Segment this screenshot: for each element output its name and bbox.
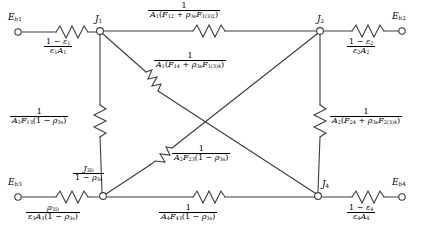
resistor-eb3-j3 <box>56 191 88 203</box>
terminal-label-eb2: Eb2 <box>392 12 406 22</box>
resistor-label-j2-j4: 1 A2(F24 + ρ3sF2(3)4) <box>330 108 402 125</box>
radiation-network-figure: Eb1 Eb2 Eb3 Eb4 J1 J2 J4 J3D 1 − ρ3s 1 −… <box>0 0 423 246</box>
resistor-label-j2-j3: 1 A2F23(1 − ρ3s) <box>172 145 230 162</box>
resistor-j1-j2 <box>193 25 225 37</box>
junction-label-j1: J1 <box>95 15 102 25</box>
resistor-j1-j4 <box>146 70 161 91</box>
resistor-j2-eb2 <box>352 25 384 37</box>
resistor-label-j1-j3: 1 A1F13(1 − ρ3s) <box>10 108 68 125</box>
resistor-j2-j3 <box>150 147 172 165</box>
junction-label-j4: J4 <box>322 180 329 190</box>
resistor-label-eb1-j1: 1 − ε1 ε1A1 <box>44 38 72 55</box>
terminal-label-eb3: Eb3 <box>8 178 22 188</box>
resistor-label-j1-j2: 1 A1(F12 + ρ3sF1(3)2) <box>148 2 220 19</box>
wire-j1-j4-lower <box>158 91 315 193</box>
terminal-node-eb3[interactable] <box>15 194 21 200</box>
resistor-label-j2-eb2: 1 − ε2 ε2A2 <box>347 38 375 55</box>
resistor-j2-j4 <box>314 105 326 137</box>
wire-j1-j4-upper <box>103 34 146 72</box>
resistor-label-j1-j4: 1 A1(F14 + ρ3sF1(3)4) <box>154 52 226 69</box>
resistor-j1-j3 <box>94 105 106 137</box>
terminal-label-eb4: Eb4 <box>392 178 406 188</box>
terminal-node-eb2[interactable] <box>399 28 405 34</box>
junction-label-j2: J2 <box>317 15 324 25</box>
resistor-label-eb3-j3: ρ3D ε3A3(1 − ρ3s) <box>26 204 80 221</box>
resistor-label-j3-j4: 1 A4F43(1 − ρ3s) <box>159 204 217 221</box>
resistor-label-j4-eb4: 1 − ε4 ε4A4 <box>347 204 375 221</box>
junction-node-j2[interactable] <box>317 28 324 35</box>
terminal-node-eb4[interactable] <box>399 194 405 200</box>
wire-j2-j3-lower <box>106 165 150 194</box>
junction-node-j3[interactable] <box>100 193 107 200</box>
resistor-j3-j4 <box>193 191 225 203</box>
junction-node-j4[interactable] <box>315 193 322 200</box>
junction-node-j1[interactable] <box>97 28 104 35</box>
terminal-node-eb1[interactable] <box>15 29 21 35</box>
terminal-label-eb1: Eb1 <box>8 13 22 23</box>
wire-j2-j4-bottom <box>318 137 320 192</box>
junction-label-j3: J3D 1 − ρ3s <box>73 165 104 182</box>
resistor-j4-eb4 <box>352 191 384 203</box>
